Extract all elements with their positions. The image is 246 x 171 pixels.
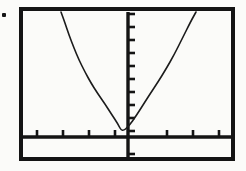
plot-canvas: [19, 7, 235, 161]
stray-ink-dot: [2, 13, 6, 17]
graph-screenshot: [0, 0, 246, 171]
y-axis-group: [128, 12, 135, 157]
